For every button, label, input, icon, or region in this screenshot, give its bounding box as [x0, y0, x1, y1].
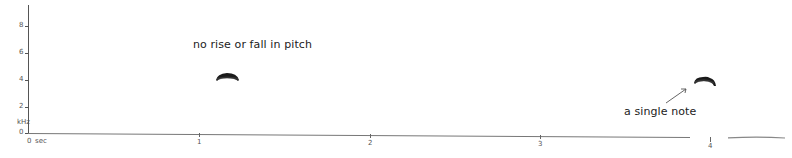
x-axis — [28, 134, 690, 138]
y-tick-label-6: 6 — [19, 49, 23, 56]
x-axis-unit: sec — [35, 138, 47, 145]
x-tick-label-3: 3 — [538, 141, 542, 148]
y-tick-label-4: 4 — [19, 76, 23, 83]
note-blob-1 — [216, 73, 239, 81]
x-tick-label-2: 2 — [368, 140, 372, 147]
x-tick-label-0: 0 — [27, 138, 31, 145]
annotation-no-pitch-change: no rise or fall in pitch — [193, 38, 312, 51]
y-tick-label-0: 0 — [19, 129, 23, 136]
spectrogram-chart: 8 6 4 2 kHz 0 0 sec 1 2 3 4 no rise or f… — [0, 0, 792, 158]
annotation-single-note: a single note — [624, 105, 696, 118]
spectrogram-plot — [0, 0, 792, 158]
x-axis-tail — [728, 137, 785, 138]
y-axis-unit: kHz — [17, 119, 30, 126]
y-tick-label-8: 8 — [19, 22, 23, 29]
x-tick-label-4: 4 — [708, 143, 712, 150]
x-tick-label-1: 1 — [197, 139, 201, 146]
y-tick-label-2: 2 — [19, 103, 23, 110]
arrow-icon — [666, 89, 686, 103]
note-blob-2 — [694, 77, 716, 86]
